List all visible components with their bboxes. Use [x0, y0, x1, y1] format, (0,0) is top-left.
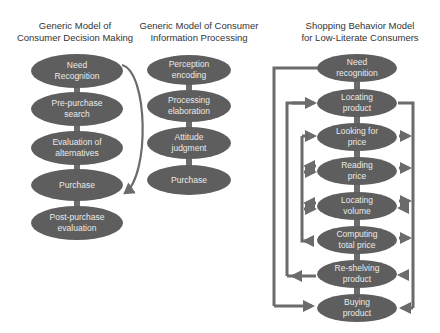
node-label-line2: encoding: [172, 70, 207, 81]
node-label-line2: judgment: [172, 143, 207, 154]
model-3-right-loop: [398, 103, 413, 308]
node-buying-product: Buying product: [317, 294, 397, 322]
node-label-line1: Reading: [341, 160, 373, 171]
node-label-line1: Evaluation of: [52, 137, 101, 148]
node-label-line1: Locating: [341, 92, 373, 103]
node-locating-volume: Locating volume: [317, 192, 397, 220]
node-locating-product: Locating product: [317, 89, 397, 117]
node-label-line2: price: [348, 171, 366, 182]
node-label-line2: elaboration: [168, 106, 210, 117]
node-processing-elaboration: Processing elaboration: [147, 90, 231, 122]
node-re-shelving-product: Re-shelving product: [317, 260, 397, 288]
node-pre-purchase-search: Pre-purchase search: [31, 92, 123, 126]
node-label-line2: alternatives: [55, 148, 98, 159]
node-label-line1: Perception: [169, 59, 210, 70]
model-1-skip-arrow: [122, 65, 143, 193]
node-label-line1: Post-purchase: [50, 212, 105, 223]
node-label-line2: price: [348, 137, 366, 148]
node-label-line1: Locating: [341, 195, 373, 206]
node-label-line2: product: [343, 103, 371, 114]
node-label-line2: product: [343, 274, 371, 285]
model-3-left-loops: [274, 68, 318, 306]
node-label-line1: Need: [67, 60, 87, 71]
node-label-line1: Purchase: [59, 180, 95, 191]
node-label-line1: Need: [347, 57, 367, 68]
node-post-purchase-evaluation: Post-purchase evaluation: [31, 206, 123, 240]
node-label-line2: product: [343, 308, 371, 319]
node-label-line1: Attitude: [175, 132, 204, 143]
node-label-line2: volume: [343, 206, 370, 217]
node-purchase: Purchase: [31, 169, 123, 201]
node-label-line1: Looking for: [336, 126, 378, 137]
node-reading-price: Reading price: [317, 157, 397, 185]
node-label-line1: Processing: [168, 95, 210, 106]
node-looking-for-price: Looking for price: [317, 123, 397, 151]
node-label-line1: Computing: [336, 229, 377, 240]
node-need-recognition: Need Recognition: [31, 54, 123, 88]
node-evaluation-of-alternatives: Evaluation of alternatives: [31, 131, 123, 165]
node-label-line2: search: [64, 109, 90, 120]
node-label-line2: Recognition: [55, 71, 100, 82]
node-label-line2: total price: [339, 240, 376, 251]
node-computing-total-price: Computing total price: [317, 226, 397, 254]
node-label-line1: Re-shelving: [335, 263, 380, 274]
node-need-recognition: Need recognition: [317, 54, 397, 82]
node-label-line2: recognition: [336, 68, 378, 79]
node-perception-encoding: Perception encoding: [147, 55, 231, 85]
node-attitude-judgment: Attitude judgment: [147, 127, 231, 159]
node-label-line1: Buying: [344, 297, 370, 308]
node-label-line1: Pre-purchase: [51, 98, 102, 109]
node-label-line1: Purchase: [171, 175, 207, 186]
node-purchase: Purchase: [147, 165, 231, 195]
node-label-line2: evaluation: [58, 223, 97, 234]
